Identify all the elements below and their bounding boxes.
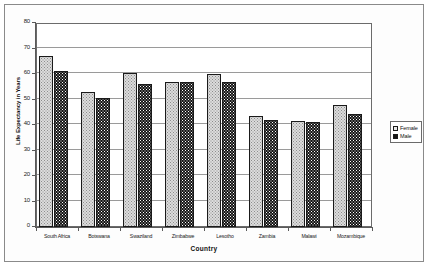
bar-female[interactable] [39, 56, 53, 227]
y-tick-label: 70 [24, 43, 30, 51]
bar-male[interactable] [138, 84, 152, 227]
y-axis-tick: 40 [5, 124, 36, 125]
x-axis-label: Zambia [246, 232, 288, 240]
legend-item-label: Female [400, 125, 418, 132]
y-axis-tick: 80 [5, 22, 36, 23]
y-tick-label: 20 [24, 170, 30, 178]
x-axis-tick-group [36, 227, 372, 231]
bar-group [204, 23, 246, 227]
bars-layer [36, 23, 372, 227]
bar-female[interactable] [207, 74, 221, 227]
bar-male[interactable] [306, 122, 320, 227]
y-tick-label: 40 [24, 119, 30, 127]
x-axis-tick-mark [120, 227, 121, 231]
bar-female[interactable] [291, 121, 305, 227]
figure-frame: Life Expectancy in Years 010203040506070… [4, 4, 424, 262]
bar-group [330, 23, 372, 227]
x-axis-label: Mozambique [330, 232, 372, 240]
x-axis-label: Malawi [288, 232, 330, 240]
y-axis-tick: 10 [5, 201, 36, 202]
y-axis-tick: 30 [5, 150, 36, 151]
x-axis-tick-mark [330, 227, 331, 231]
x-axis-tick-mark [162, 227, 163, 231]
y-axis-tick: 70 [5, 48, 36, 49]
bar-female[interactable] [123, 73, 137, 227]
x-axis-tick-mark [78, 227, 79, 231]
bar-male[interactable] [264, 120, 278, 227]
x-axis-label: Zimbabwe [162, 232, 204, 240]
x-axis-label: Swaziland [120, 232, 162, 240]
bar-male[interactable] [54, 71, 68, 227]
x-axis-tick-mark [246, 227, 247, 231]
x-axis-tick-mark [204, 227, 205, 231]
bar-male[interactable] [222, 82, 236, 227]
x-axis-label: Lesotho [204, 232, 246, 240]
x-axis-label: Botswana [78, 232, 120, 240]
bar-group [162, 23, 204, 227]
y-tick-label: 0 [27, 221, 30, 229]
y-axis-tick-group: 01020304050607080 [5, 23, 36, 227]
x-axis-tick-mark [372, 227, 373, 231]
bar-male[interactable] [348, 114, 362, 227]
bar-group [36, 23, 78, 227]
bar-male[interactable] [180, 82, 194, 227]
y-axis-tick: 60 [5, 73, 36, 74]
female-swatch-icon [393, 126, 398, 131]
y-tick-label: 50 [24, 94, 30, 102]
x-axis-label: South Africa [36, 232, 78, 240]
y-tick-label: 60 [24, 68, 30, 76]
legend-item[interactable]: Male [393, 132, 418, 140]
legend-item-label: Male [400, 133, 412, 140]
legend-item[interactable]: Female [393, 124, 418, 132]
bar-female[interactable] [249, 116, 263, 227]
bar-group [120, 23, 162, 227]
y-tick-label: 10 [24, 196, 30, 204]
x-axis-tick-mark [36, 227, 37, 231]
y-axis-tick: 20 [5, 175, 36, 176]
bar-female[interactable] [81, 92, 95, 227]
male-swatch-icon [393, 134, 398, 139]
x-axis-title: Country [36, 245, 372, 252]
x-axis-tick-mark [288, 227, 289, 231]
bar-group [288, 23, 330, 227]
chart-legend: FemaleMale [390, 121, 422, 143]
x-axis-label-group: South AfricaBotswanaSwazilandZimbabweLes… [36, 232, 372, 244]
y-tick-label: 80 [24, 17, 30, 25]
bar-group [246, 23, 288, 227]
y-axis-tick: 0 [5, 226, 36, 227]
bar-group [78, 23, 120, 227]
bar-female[interactable] [165, 82, 179, 227]
bar-male[interactable] [96, 98, 110, 227]
bar-female[interactable] [333, 105, 347, 227]
y-tick-label: 30 [24, 145, 30, 153]
y-axis-tick: 50 [5, 99, 36, 100]
